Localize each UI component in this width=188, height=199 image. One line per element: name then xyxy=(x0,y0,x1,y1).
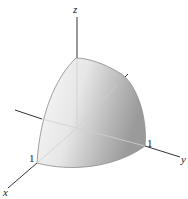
x-axis-label: x xyxy=(2,186,8,198)
negative-x-axis-segment xyxy=(15,110,42,119)
x-tick-label: 1 xyxy=(29,152,35,164)
z-axis-label: z xyxy=(72,3,78,15)
y-axis-label: y xyxy=(180,153,186,165)
sphere-octant-diagram: z x y 1 1 xyxy=(0,0,188,199)
x-axis xyxy=(8,163,37,188)
diagram-canvas: z x y 1 1 xyxy=(0,0,188,199)
y-tick-label: 1 xyxy=(147,137,153,149)
